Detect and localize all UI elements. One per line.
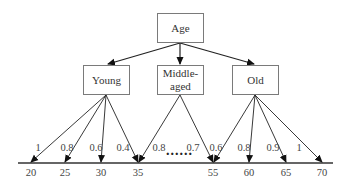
node-middle-aged-label-line2: aged [170, 80, 191, 93]
tick-65: 65 [281, 167, 292, 178]
tick-60: 60 [244, 167, 255, 178]
node-young-label: Young [92, 74, 121, 87]
node-middle-aged-label-line1: Middle- [163, 67, 198, 80]
tick-55: 55 [208, 167, 219, 178]
weight-old-65: 0.9 [266, 142, 279, 153]
weight-young-30: 0.6 [89, 142, 102, 153]
ellipsis: ...... [166, 146, 193, 156]
weight-young-25: 0.8 [60, 142, 73, 153]
tick-20: 20 [26, 167, 37, 178]
node-old: Old [232, 65, 279, 95]
node-old-label: Old [247, 74, 264, 87]
weight-old-55: 0.6 [209, 142, 222, 153]
tick-35: 35 [133, 167, 144, 178]
tick-70: 70 [317, 167, 328, 178]
tick-25: 25 [60, 167, 71, 178]
root-label: Age [171, 22, 189, 35]
weight-young-20: 1 [35, 142, 40, 153]
weight-middle-35: 0.8 [152, 142, 165, 153]
root-node-age: Age [157, 13, 204, 43]
weight-old-70: 1 [296, 142, 301, 153]
node-young: Young [83, 65, 130, 95]
root-edges [108, 43, 254, 64]
tick-30: 30 [96, 167, 107, 178]
node-middle-aged: Middle- aged [157, 65, 204, 95]
weight-young-35: 0.4 [116, 142, 129, 153]
age-membership-diagram: Age Young Middle- aged Old 1 0.8 0.6 0.4… [0, 0, 349, 188]
weight-old-60: 0.8 [237, 142, 250, 153]
